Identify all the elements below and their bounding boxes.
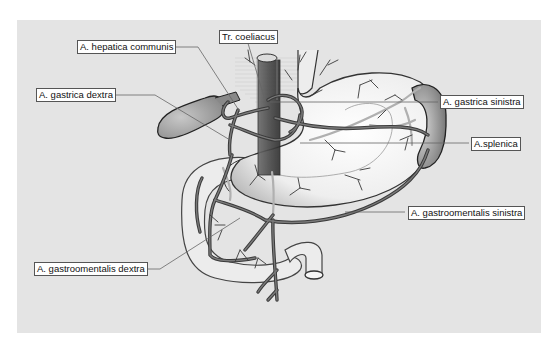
label-a-gastroomentalis-dextra: A. gastroomentalis dextra (34, 262, 148, 276)
label-tr-coeliacus: Tr. coeliacus (219, 30, 278, 44)
label-a-gastrica-dextra: A. gastrica dextra (36, 88, 116, 102)
label-a-gastrica-sinistra: A. gastrica sinistra (440, 95, 524, 109)
label-a-hepatica-communis: A. hepatica communis (77, 40, 176, 54)
esophagus (298, 50, 318, 94)
label-a-gastroomentalis-sinistra: A. gastroomentalis sinistra (408, 206, 525, 220)
label-a-splenica: A.splenica (471, 137, 521, 151)
